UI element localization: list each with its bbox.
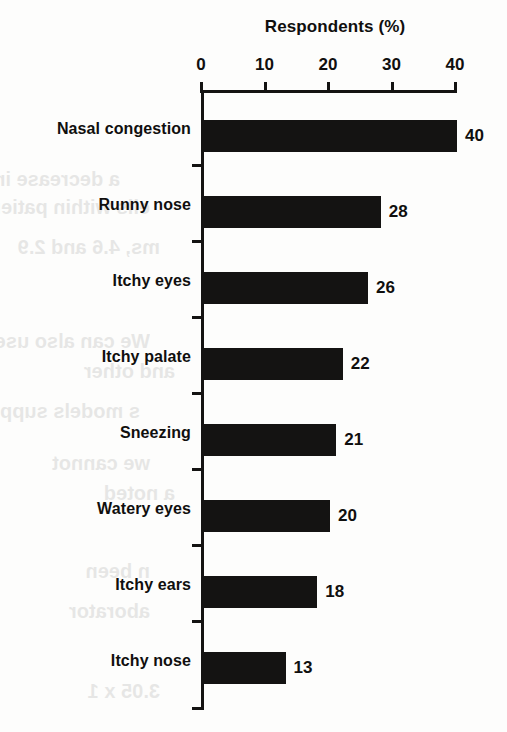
y-axis-tick	[192, 620, 202, 623]
category-label: Nasal congestion	[57, 120, 191, 138]
x-axis-tick-label: 0	[181, 55, 221, 75]
bar-value-label: 22	[351, 348, 370, 380]
bar	[203, 348, 343, 380]
bar-value-label: 20	[338, 500, 357, 532]
bar-value-label: 28	[389, 196, 408, 228]
y-axis-tick	[192, 316, 202, 319]
bar-row: Sneezing21	[0, 402, 507, 478]
bar	[203, 500, 330, 532]
bar-value-label: 18	[325, 576, 344, 608]
bar-row: Itchy palate22	[0, 326, 507, 402]
x-axis-line	[201, 90, 455, 93]
category-label: Watery eyes	[97, 500, 191, 518]
y-axis-tick	[192, 164, 202, 167]
chart-title: Respondents (%)	[190, 17, 480, 37]
category-label: Runny nose	[98, 196, 191, 214]
bar	[203, 272, 368, 304]
x-axis-tick-label: 20	[308, 55, 348, 75]
chart-figure: a decrease in serumells within patientsm…	[0, 0, 507, 732]
category-label: Itchy palate	[102, 348, 191, 366]
bar-value-label: 21	[344, 424, 363, 456]
bar-row: Watery eyes20	[0, 478, 507, 554]
y-axis-foot-tick	[192, 707, 202, 710]
bar-row: Itchy eyes26	[0, 250, 507, 326]
bar	[203, 120, 457, 152]
x-axis-tick-label: 10	[245, 55, 285, 75]
y-axis-tick	[192, 392, 202, 395]
x-axis-tick	[454, 82, 457, 93]
x-axis-tick-label: 30	[372, 55, 412, 75]
bar-row: Itchy nose13	[0, 630, 507, 706]
bar-value-label: 40	[465, 120, 484, 152]
y-axis-tick	[192, 468, 202, 471]
x-axis-tick	[264, 82, 267, 93]
category-label: Itchy eyes	[113, 272, 191, 290]
category-label: Itchy ears	[115, 576, 191, 594]
y-axis-line	[201, 90, 204, 710]
x-axis-tick-label: 40	[435, 55, 475, 75]
bar	[203, 652, 286, 684]
y-axis-tick	[192, 544, 202, 547]
x-axis-tick	[391, 82, 394, 93]
bar	[203, 196, 381, 228]
bar	[203, 424, 336, 456]
category-label: Sneezing	[120, 424, 191, 442]
bar-value-label: 26	[376, 272, 395, 304]
category-label: Itchy nose	[111, 652, 191, 670]
y-axis-tick	[192, 240, 202, 243]
bar-row: Nasal congestion40	[0, 98, 507, 174]
bar-row: Itchy ears18	[0, 554, 507, 630]
bar	[203, 576, 317, 608]
bar-row: Runny nose28	[0, 174, 507, 250]
bar-value-label: 13	[294, 652, 313, 684]
x-axis-tick	[327, 82, 330, 93]
